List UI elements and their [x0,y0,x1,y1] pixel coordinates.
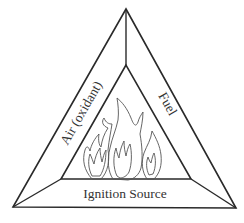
ignition-source-label: Ignition Source [83,186,167,201]
center-flame-icon [108,98,143,180]
right-corner-connector [191,179,236,208]
left-flame-icon [84,118,112,179]
fire-triangle-diagram: Air (oxidant) Fuel Ignition Source [0,0,244,223]
right-flame-inner [147,153,156,175]
right-flame-icon [142,131,161,179]
fuel-label: Fuel [155,90,180,118]
center-flame-inner [114,141,132,178]
outer-triangle [13,9,236,208]
flames-icon [84,98,162,180]
left-flame-inner [89,148,106,176]
